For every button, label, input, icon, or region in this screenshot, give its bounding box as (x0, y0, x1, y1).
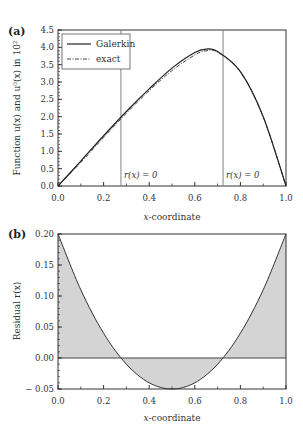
y-axis-label-b: Residual r(x) (12, 282, 22, 341)
svg-text:1.5: 1.5 (40, 129, 54, 139)
svg-text:0.0: 0.0 (51, 396, 65, 406)
svg-text:2.5: 2.5 (40, 94, 54, 104)
x-axis-label-a: x-coordinate (143, 212, 200, 222)
svg-text:4.5: 4.5 (40, 25, 54, 35)
svg-text:0.4: 0.4 (142, 193, 156, 203)
x-axis-label-b: x-coordinate (143, 413, 200, 423)
svg-text:0.2: 0.2 (97, 193, 111, 203)
svg-text:0.2: 0.2 (97, 396, 111, 406)
svg-text:0.6: 0.6 (188, 396, 202, 406)
svg-text:0.5: 0.5 (40, 164, 54, 174)
panel-a: (a) 0.00.51.01.52.02.53.03.54.04.5 0.00.… (8, 25, 293, 222)
legend-exact-label: exact (96, 54, 121, 64)
svg-text:3.5: 3.5 (40, 60, 54, 70)
svg-text:0.4: 0.4 (142, 396, 156, 406)
x-axis-a: 0.00.20.40.60.81.0 (51, 182, 293, 203)
y-axis-a: 0.00.51.01.52.02.53.03.54.04.5 (40, 25, 62, 191)
exact-curve (58, 50, 286, 186)
svg-text:− 0.05: − 0.05 (25, 384, 54, 394)
legend: Galerkin exact (62, 34, 135, 69)
svg-text:0.20: 0.20 (35, 229, 54, 239)
y-axis-b: − 0.050.000.050.100.150.20 (25, 229, 62, 394)
svg-text:0.15: 0.15 (35, 260, 54, 270)
annotation-1: r(x) = 0 (124, 170, 158, 180)
svg-text:0.8: 0.8 (234, 396, 248, 406)
svg-text:0.0: 0.0 (40, 181, 54, 191)
annotation-2: r(x) = 0 (226, 170, 260, 180)
panel-a-label: (a) (8, 25, 26, 38)
svg-text:2.0: 2.0 (40, 112, 54, 122)
y-axis-label-a: Function u(x) and u⁰(x) in 10² (12, 40, 22, 175)
svg-text:0.8: 0.8 (234, 193, 248, 203)
svg-text:0.10: 0.10 (35, 291, 54, 301)
panel-b-label: (b) (8, 228, 26, 241)
svg-text:0.6: 0.6 (188, 193, 202, 203)
figure: (a) 0.00.51.01.52.02.53.03.54.04.5 0.00.… (0, 0, 303, 440)
x-axis-b: 0.00.20.40.60.81.0 (51, 385, 293, 406)
svg-text:1.0: 1.0 (279, 193, 293, 203)
svg-text:0.0: 0.0 (51, 193, 65, 203)
legend-galerkin-label: Galerkin (96, 39, 135, 49)
residual-fill (58, 234, 286, 389)
svg-text:1.0: 1.0 (279, 396, 293, 406)
svg-text:0.05: 0.05 (35, 322, 54, 332)
svg-text:4.0: 4.0 (40, 42, 54, 52)
panel-b: (b) − 0.050.000.050.100.150.20 0.00.20.4… (8, 228, 293, 423)
svg-text:3.0: 3.0 (40, 77, 54, 87)
svg-text:0.00: 0.00 (35, 353, 54, 363)
svg-text:1.0: 1.0 (40, 146, 54, 156)
